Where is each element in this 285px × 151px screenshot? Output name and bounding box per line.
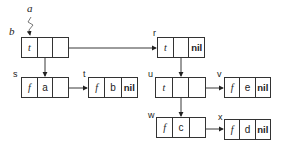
node-r: t nil bbox=[157, 37, 205, 58]
label-w: w bbox=[148, 110, 155, 120]
node-t: f b nil bbox=[88, 77, 138, 98]
node-v: f e nil bbox=[224, 77, 271, 98]
node-w: f c bbox=[156, 117, 206, 138]
node-b: t bbox=[21, 37, 69, 58]
label-t: t bbox=[83, 69, 86, 79]
node-x-next: nil bbox=[256, 120, 270, 139]
node-s-next bbox=[53, 78, 68, 97]
node-w-value: c bbox=[173, 118, 189, 137]
node-v-next: nil bbox=[256, 78, 270, 97]
node-u-tag: t bbox=[156, 78, 173, 97]
node-s: f a bbox=[21, 77, 69, 98]
label-u: u bbox=[148, 69, 153, 79]
label-v: v bbox=[217, 69, 222, 79]
node-v-value: e bbox=[240, 78, 255, 97]
node-x-tag: f bbox=[225, 120, 240, 139]
node-w-next bbox=[190, 118, 205, 137]
node-s-tag: f bbox=[22, 78, 38, 97]
node-b-right bbox=[53, 38, 68, 57]
node-u-right bbox=[189, 78, 205, 97]
node-r-tag: t bbox=[158, 38, 174, 57]
node-r-right: nil bbox=[189, 38, 204, 57]
label-a: a bbox=[27, 2, 33, 14]
node-b-left bbox=[38, 38, 54, 57]
node-x-value: d bbox=[240, 120, 255, 139]
label-x: x bbox=[218, 112, 223, 122]
node-u-left bbox=[173, 78, 190, 97]
node-w-tag: f bbox=[157, 118, 173, 137]
label-b: b bbox=[9, 25, 15, 37]
node-v-tag: f bbox=[225, 78, 240, 97]
label-r: r bbox=[153, 28, 156, 38]
squiggle-arrow-a-to-b bbox=[28, 17, 33, 35]
node-t-value: b bbox=[105, 78, 121, 97]
node-t-next: nil bbox=[122, 78, 137, 97]
node-u: t bbox=[155, 77, 206, 98]
label-s: s bbox=[13, 69, 18, 79]
node-x: f d nil bbox=[224, 119, 271, 140]
node-r-left bbox=[174, 38, 190, 57]
node-b-tag: t bbox=[22, 38, 38, 57]
node-t-tag: f bbox=[89, 78, 105, 97]
node-s-value: a bbox=[38, 78, 54, 97]
